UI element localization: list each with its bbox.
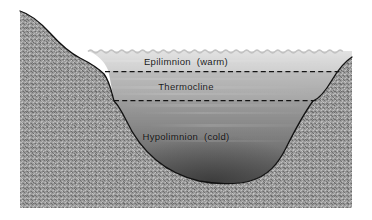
lake-stratification-diagram: Epilimnion (warm) Thermocline Hypolimnio… — [0, 0, 372, 220]
lake-cross-section-svg — [0, 0, 372, 220]
